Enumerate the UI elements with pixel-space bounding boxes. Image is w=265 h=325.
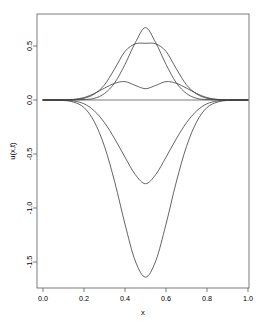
y-tick-label: 0.0 bbox=[25, 95, 34, 105]
plot-canvas: 0.00.20.40.60.81.0 0.50.0-0.5-1.0-1.5 x … bbox=[0, 0, 265, 325]
y-tick-label: -1.5 bbox=[25, 256, 34, 268]
y-tick-label: 0.5 bbox=[25, 41, 34, 51]
x-tick-label: 0.6 bbox=[161, 294, 171, 303]
x-tick-label: 0.4 bbox=[120, 294, 130, 303]
y-tick-label: -0.5 bbox=[25, 148, 34, 160]
plot-figure: 0.00.20.40.60.81.0 0.50.0-0.5-1.0-1.5 x … bbox=[0, 0, 265, 325]
y-axis-title: u(x,t) bbox=[8, 142, 17, 160]
x-tick-label: 1.0 bbox=[243, 294, 253, 303]
x-tick-label: 0.2 bbox=[79, 294, 89, 303]
x-axis-title: x bbox=[141, 308, 145, 317]
y-tick-label: -1.0 bbox=[25, 202, 34, 214]
x-tick-label: 0.0 bbox=[38, 294, 48, 303]
x-tick-label: 0.8 bbox=[202, 294, 212, 303]
